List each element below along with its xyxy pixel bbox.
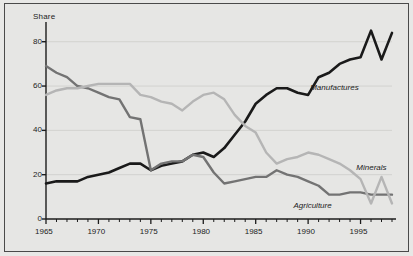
x-axis-tick-label: 1985 <box>245 227 263 236</box>
y-axis-tick-label: 80 <box>18 37 42 46</box>
series-label-agriculture: Agriculture <box>293 201 331 210</box>
series-label-manufactures: Manufactures <box>310 83 358 92</box>
x-axis-tick-label: 1970 <box>87 227 105 236</box>
y-axis-tick-label: 40 <box>18 125 42 134</box>
x-axis-tick-label: 1975 <box>140 227 158 236</box>
series-label-minerals: Minerals <box>356 163 386 172</box>
chart-figure: Share 0204060801965197019751980198519901… <box>0 0 413 256</box>
x-axis-tick-label: 1995 <box>350 227 368 236</box>
series-line-manufactures <box>46 31 392 184</box>
chart-plot-area <box>0 0 413 256</box>
y-axis-tick-label: 60 <box>18 81 42 90</box>
y-axis-tick-label: 0 <box>18 214 42 223</box>
x-axis-tick-label: 1965 <box>35 227 53 236</box>
x-axis-tick-label: 1980 <box>192 227 210 236</box>
series-line-minerals <box>46 84 392 204</box>
x-axis-tick-label: 1990 <box>297 227 315 236</box>
y-axis-tick-label: 20 <box>18 170 42 179</box>
